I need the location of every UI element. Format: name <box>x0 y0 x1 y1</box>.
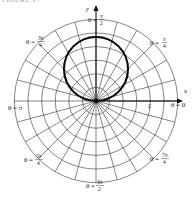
svg-text:4: 4 <box>39 42 42 48</box>
svg-text:3π: 3π <box>97 179 103 185</box>
angle-label-three-pi-over-2: θ = 3π 2 <box>86 179 104 192</box>
svg-text:2: 2 <box>100 20 103 26</box>
svg-text:θ =: θ = <box>150 39 159 47</box>
angle-label-pi: θ = π <box>8 104 23 112</box>
svg-text:4: 4 <box>163 43 166 49</box>
angle-label-pi-over-4: θ = π 4 <box>150 36 167 49</box>
svg-text:θ =: θ = <box>86 182 95 190</box>
svg-text:θ =: θ = <box>88 16 97 24</box>
svg-text:θ =: θ = <box>24 156 33 164</box>
svg-text:7π: 7π <box>162 152 168 158</box>
y-axis-label: y <box>85 5 90 13</box>
svg-text:θ =: θ = <box>150 155 159 163</box>
angle-label-five-pi-over-4: θ = 5π 4 <box>24 153 43 166</box>
svg-text:5π: 5π <box>36 153 42 159</box>
svg-text:π: π <box>163 36 166 42</box>
polar-graph: y x 2 θ = π 2 θ = π 4 θ = 0 θ = 7π 4 θ =… <box>0 0 194 198</box>
svg-text:2: 2 <box>98 186 101 192</box>
angle-label-zero: θ = 0 <box>171 101 186 109</box>
axes <box>94 5 184 104</box>
angle-label-seven-pi-over-4: θ = 7π 4 <box>150 152 169 165</box>
svg-text:4: 4 <box>37 160 40 166</box>
tick-label-2: 2 <box>148 103 151 109</box>
svg-text:3π: 3π <box>38 35 44 41</box>
svg-text:π: π <box>100 13 103 19</box>
x-axis-label: x <box>183 87 188 95</box>
svg-text:θ =: θ = <box>26 38 35 46</box>
svg-text:4: 4 <box>163 159 166 165</box>
origin-dot <box>94 99 98 103</box>
